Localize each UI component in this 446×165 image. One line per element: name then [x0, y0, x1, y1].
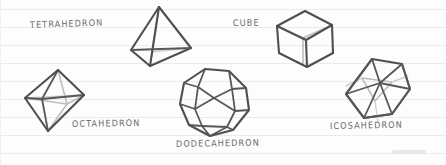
paper-left-margin [0, 0, 1, 165]
rule-line [0, 153, 446, 154]
icosahedron-shape [342, 56, 414, 126]
tetrahedron-shape [128, 4, 198, 70]
platonic-solids-diagram: TETRAHEDRON CUBE [0, 0, 446, 165]
paper-smudge [392, 150, 426, 154]
dodecahedron-shape [177, 66, 253, 140]
icosahedron-label: ICOSAHEDRON [330, 120, 403, 131]
dodecahedron-label: DODECAHEDRON [176, 138, 260, 149]
cube-shape [272, 8, 340, 70]
octahedron-label: OCTAHEDRON [72, 118, 140, 129]
cube-label: CUBE [233, 18, 260, 28]
rule-line [0, 9, 446, 10]
rule-line [0, 45, 446, 46]
tetrahedron-label: TETRAHEDRON [30, 17, 104, 30]
